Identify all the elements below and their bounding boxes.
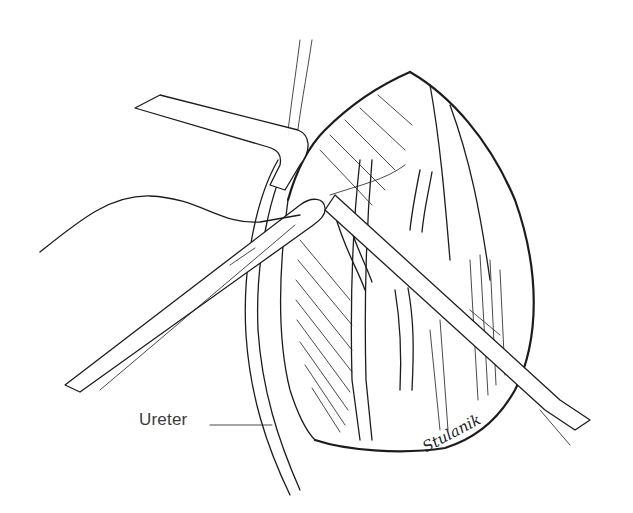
wall-edge-left bbox=[245, 40, 312, 495]
surgical-illustration bbox=[0, 0, 633, 513]
forceps-left bbox=[65, 199, 325, 392]
retractor-blade bbox=[135, 95, 308, 190]
tissue-right bbox=[430, 85, 505, 430]
ureter-label: Ureter bbox=[139, 410, 187, 430]
